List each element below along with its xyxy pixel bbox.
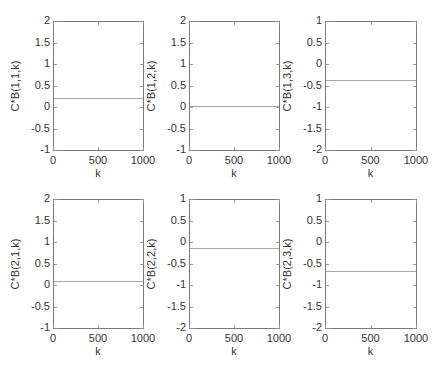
y-tick-mark [190, 264, 193, 265]
y-tick-mark [326, 150, 329, 151]
y-tick-mark [140, 264, 143, 265]
x-tick-mark [53, 22, 54, 25]
y-tick-mark [140, 221, 143, 222]
y-tick-mark [140, 150, 143, 151]
y-tick-mark [140, 307, 143, 308]
y-tick-mark [413, 328, 416, 329]
y-tick-label: -0.5 [292, 80, 322, 91]
y-tick-mark [190, 64, 193, 65]
subplot-axes [189, 199, 280, 329]
y-tick-label: -0.5 [20, 123, 50, 134]
x-tick-mark [325, 325, 326, 328]
x-tick-mark [53, 147, 54, 150]
y-tick-mark [190, 43, 193, 44]
y-tick-mark [413, 86, 416, 87]
y-tick-mark [54, 328, 57, 329]
x-tick-mark [53, 325, 54, 328]
y-tick-mark [326, 129, 329, 130]
x-tick-label: 1000 [259, 155, 299, 166]
x-tick-mark [325, 200, 326, 203]
data-series-line [54, 98, 143, 99]
y-tick-label: 0 [156, 101, 186, 112]
y-tick-label: -2 [292, 322, 322, 333]
y-tick-label: 1 [292, 15, 322, 26]
y-tick-mark [190, 107, 193, 108]
data-series-line [326, 271, 416, 272]
y-tick-label: -1 [156, 279, 186, 290]
x-tick-label: 1000 [396, 155, 436, 166]
y-tick-label: 1 [20, 236, 50, 247]
x-tick-label: 500 [78, 333, 118, 344]
x-tick-mark [279, 22, 280, 25]
y-axis-label: C*B(2,2,k) [145, 214, 157, 314]
y-tick-mark [326, 285, 329, 286]
y-tick-mark [413, 264, 416, 265]
y-axis-label: C*B(1,1,k) [9, 36, 21, 136]
x-tick-label: 1000 [123, 333, 163, 344]
y-axis-label: C*B(2,1,k) [9, 214, 21, 314]
x-tick-label: 500 [214, 333, 254, 344]
y-tick-mark [413, 221, 416, 222]
y-tick-label: -2 [156, 322, 186, 333]
y-tick-mark [54, 242, 57, 243]
y-tick-label: -0.5 [292, 258, 322, 269]
y-tick-label: 0 [156, 236, 186, 247]
y-tick-label: -0.5 [156, 123, 186, 134]
x-tick-mark [416, 200, 417, 203]
data-series-line [326, 80, 416, 81]
x-tick-label: 500 [351, 333, 391, 344]
y-tick-label: 1 [292, 193, 322, 204]
y-tick-mark [326, 242, 329, 243]
y-tick-mark [190, 150, 193, 151]
x-tick-mark [143, 325, 144, 328]
x-tick-mark [98, 325, 99, 328]
x-tick-mark [234, 147, 235, 150]
y-tick-mark [276, 86, 279, 87]
y-tick-label: 0.5 [292, 37, 322, 48]
y-tick-label: 0.5 [156, 215, 186, 226]
y-tick-label: -1.5 [292, 123, 322, 134]
x-tick-label: 500 [351, 155, 391, 166]
y-tick-mark [413, 107, 416, 108]
subplot-axes [325, 199, 417, 329]
y-tick-mark [413, 285, 416, 286]
y-tick-mark [54, 221, 57, 222]
x-tick-label: 1000 [396, 333, 436, 344]
x-axis-label: k [224, 345, 244, 357]
subplot-axes [189, 21, 280, 151]
x-tick-mark [371, 325, 372, 328]
y-tick-label: 1 [20, 58, 50, 69]
x-tick-mark [53, 200, 54, 203]
y-tick-mark [190, 221, 193, 222]
y-tick-mark [276, 307, 279, 308]
y-tick-mark [190, 307, 193, 308]
x-tick-label: 0 [33, 155, 73, 166]
y-tick-label: 0.5 [156, 80, 186, 91]
y-tick-label: 0.5 [20, 80, 50, 91]
y-tick-mark [140, 107, 143, 108]
y-tick-label: -1 [292, 279, 322, 290]
y-tick-mark [276, 150, 279, 151]
y-tick-label: -1.5 [292, 301, 322, 312]
y-tick-label: -0.5 [156, 258, 186, 269]
y-tick-mark [326, 86, 329, 87]
y-tick-mark [276, 264, 279, 265]
subplot-axes [53, 21, 144, 151]
y-tick-mark [326, 43, 329, 44]
x-tick-mark [98, 200, 99, 203]
x-tick-label: 0 [33, 333, 73, 344]
y-tick-label: 0 [20, 279, 50, 290]
y-tick-mark [54, 129, 57, 130]
y-tick-mark [190, 129, 193, 130]
y-tick-mark [54, 150, 57, 151]
y-tick-mark [326, 199, 329, 200]
x-tick-mark [143, 147, 144, 150]
x-axis-label: k [361, 345, 381, 357]
y-tick-mark [54, 107, 57, 108]
y-tick-label: 0 [292, 58, 322, 69]
y-tick-mark [326, 328, 329, 329]
y-tick-label: -1 [20, 322, 50, 333]
y-tick-mark [276, 285, 279, 286]
y-tick-mark [326, 64, 329, 65]
y-tick-mark [276, 242, 279, 243]
